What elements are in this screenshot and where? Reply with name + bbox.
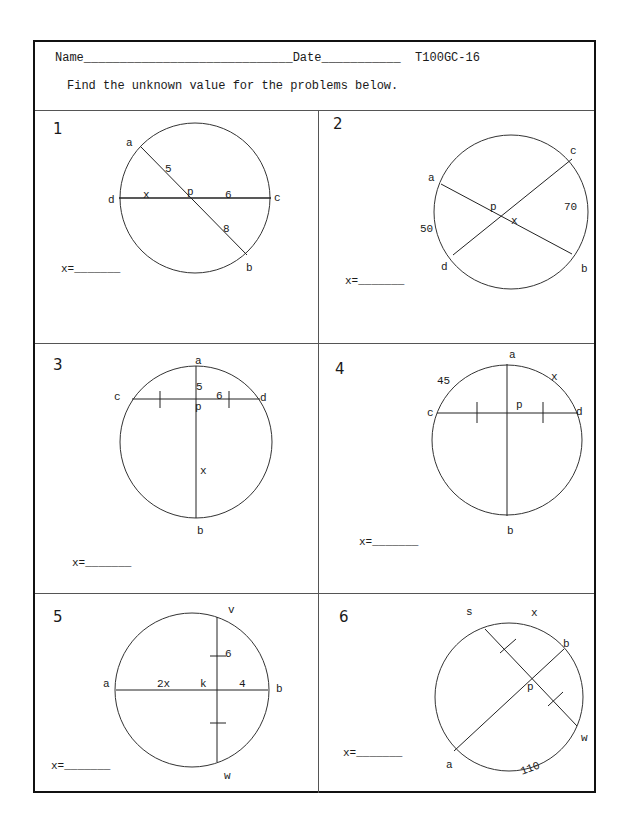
svg-text:x: x: [143, 189, 150, 201]
svg-text:a: a: [195, 355, 202, 367]
answer-field[interactable]: x=_______: [51, 760, 110, 772]
diagram-6: s x b p w a 110: [319, 594, 598, 793]
svg-text:6: 6: [225, 648, 232, 660]
svg-text:x: x: [551, 371, 558, 383]
svg-text:50: 50: [420, 223, 433, 235]
svg-text:c: c: [427, 407, 434, 419]
svg-text:6: 6: [216, 390, 223, 402]
problem-3: 3 a b c d p 5 6 x x=_______: [35, 344, 318, 593]
problem-4: 4 a b c d p 45 x x=_______: [319, 344, 598, 593]
svg-text:70: 70: [564, 201, 577, 213]
diagram-2: a b c d p x 50 70: [319, 110, 598, 343]
svg-text:b: b: [581, 263, 588, 275]
svg-text:s: s: [466, 606, 473, 618]
name-label: Name: [55, 51, 84, 65]
svg-text:a: a: [428, 172, 435, 184]
diagram-4: a b c d p 45 x: [319, 344, 598, 593]
svg-text:k: k: [200, 678, 207, 690]
name-date-line: Name_____________________________Date___…: [55, 51, 480, 65]
svg-text:110: 110: [519, 760, 542, 778]
svg-text:a: a: [103, 678, 110, 690]
svg-text:b: b: [507, 525, 514, 537]
diagram-1: a b c d p 5 8 6 x: [35, 110, 318, 343]
svg-text:d: d: [441, 261, 448, 273]
svg-text:2x: 2x: [157, 678, 171, 690]
svg-text:x: x: [200, 465, 207, 477]
svg-text:5: 5: [196, 381, 203, 393]
diagram-3: a b c d p 5 6 x: [35, 344, 318, 593]
svg-text:w: w: [581, 732, 588, 744]
svg-text:x: x: [531, 607, 538, 619]
svg-text:c: c: [274, 192, 281, 204]
svg-text:5: 5: [165, 163, 172, 175]
problem-6: 6 s x b p w a 110 x=_______: [319, 594, 598, 793]
svg-text:p: p: [187, 186, 194, 198]
problem-1: 1 a b c d p 5 8 6 x x=_______: [35, 110, 318, 343]
svg-text:b: b: [563, 638, 570, 650]
date-label: Date: [293, 51, 322, 65]
answer-field[interactable]: x=_______: [345, 275, 404, 287]
svg-text:b: b: [197, 525, 204, 537]
svg-text:v: v: [228, 604, 235, 616]
svg-text:4: 4: [239, 678, 246, 690]
answer-field[interactable]: x=_______: [72, 557, 131, 569]
worksheet-code: T100GC-16: [415, 51, 480, 65]
svg-text:d: d: [108, 194, 115, 206]
svg-text:x: x: [511, 215, 518, 227]
svg-text:p: p: [527, 681, 534, 693]
name-field[interactable]: _____________________________: [84, 51, 293, 65]
svg-text:w: w: [224, 770, 231, 782]
svg-text:8: 8: [223, 223, 230, 235]
date-field[interactable]: ___________: [321, 51, 400, 65]
svg-text:p: p: [490, 201, 497, 213]
answer-field[interactable]: x=_______: [343, 747, 402, 759]
svg-text:a: a: [126, 137, 133, 149]
svg-text:45: 45: [437, 375, 450, 387]
svg-text:p: p: [516, 399, 523, 411]
svg-text:b: b: [246, 262, 253, 274]
svg-text:a: a: [509, 349, 516, 361]
problem-5: 5 v w a b k 2x 4 6 x=_______: [35, 594, 318, 793]
svg-text:c: c: [570, 145, 577, 157]
answer-field[interactable]: x=_______: [359, 536, 418, 548]
worksheet-header: Name_____________________________Date___…: [35, 42, 594, 111]
problem-2: 2 a b c d p x 50 70 x=_______: [319, 110, 598, 343]
instructions: Find the unknown value for the problems …: [67, 79, 398, 93]
worksheet: Name_____________________________Date___…: [33, 40, 596, 793]
svg-text:6: 6: [225, 189, 232, 201]
svg-text:d: d: [576, 406, 583, 418]
svg-text:a: a: [446, 759, 453, 771]
svg-text:b: b: [276, 683, 283, 695]
answer-field[interactable]: x=_______: [61, 263, 120, 275]
svg-text:c: c: [114, 391, 121, 403]
svg-text:p: p: [195, 401, 202, 413]
svg-text:d: d: [260, 392, 267, 404]
